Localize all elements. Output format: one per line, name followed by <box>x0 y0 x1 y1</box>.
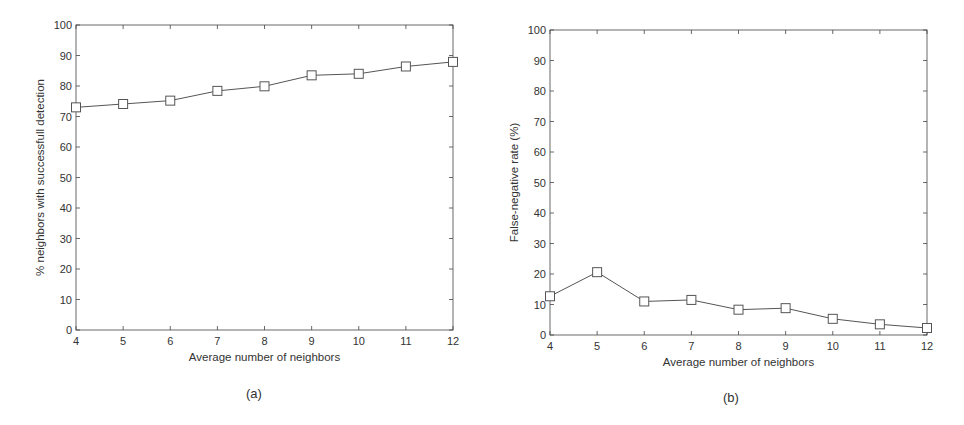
y-tick-label: 80 <box>534 85 546 97</box>
x-tick-label: 9 <box>309 335 315 347</box>
square-marker-icon <box>449 57 458 66</box>
square-marker-icon <box>923 323 932 332</box>
y-tick-label: 20 <box>60 263 72 275</box>
x-tick-label: 10 <box>827 340 839 352</box>
x-tick-label: 5 <box>594 340 600 352</box>
square-marker-icon <box>875 320 884 329</box>
y-tick-label: 90 <box>534 55 546 67</box>
x-tick-label: 8 <box>735 340 741 352</box>
y-tick-label: 30 <box>60 233 72 245</box>
x-tick-label: 8 <box>261 335 267 347</box>
y-tick-label: 50 <box>60 172 72 184</box>
x-tick-label: 4 <box>547 340 553 352</box>
chart-a-panel: 4567891011120102030405060708090100Averag… <box>0 0 480 425</box>
square-marker-icon <box>307 71 316 80</box>
chart-b: 4567891011120102030405060708090100Averag… <box>480 0 964 425</box>
y-tick-label: 80 <box>60 80 72 92</box>
y-tick-label: 10 <box>60 294 72 306</box>
square-marker-icon <box>260 82 269 91</box>
x-axis-label: Average number of neighbors <box>663 356 815 368</box>
chart-b-caption: (b) <box>723 390 739 405</box>
x-tick-label: 9 <box>783 340 789 352</box>
x-tick-label: 4 <box>73 335 79 347</box>
x-tick-label: 6 <box>641 340 647 352</box>
square-marker-icon <box>734 305 743 314</box>
square-marker-icon <box>781 304 790 313</box>
square-marker-icon <box>828 314 837 323</box>
square-marker-icon <box>213 86 222 95</box>
x-axis-label: Average number of neighbors <box>189 351 341 363</box>
y-tick-label: 30 <box>534 238 546 250</box>
y-axis-label: % neighbors with successfull detection <box>34 79 46 276</box>
x-tick-label: 12 <box>447 335 459 347</box>
square-marker-icon <box>687 295 696 304</box>
chart-a: 4567891011120102030405060708090100Averag… <box>0 0 480 425</box>
x-tick-label: 11 <box>874 340 885 352</box>
square-marker-icon <box>354 69 363 78</box>
plot-area <box>550 30 927 335</box>
series-line <box>550 272 927 328</box>
y-tick-label: 90 <box>60 50 72 62</box>
x-tick-label: 7 <box>214 335 220 347</box>
chart-a-caption: (a) <box>246 386 262 401</box>
x-tick-label: 12 <box>921 340 933 352</box>
y-tick-label: 60 <box>60 141 72 153</box>
square-marker-icon <box>593 268 602 277</box>
square-marker-icon <box>401 62 410 71</box>
plot-area <box>76 25 453 330</box>
y-axis-label: False-negative rate (%) <box>508 123 520 243</box>
square-marker-icon <box>640 297 649 306</box>
y-tick-label: 40 <box>60 202 72 214</box>
x-tick-label: 6 <box>167 335 173 347</box>
y-tick-label: 50 <box>534 177 546 189</box>
y-tick-label: 40 <box>534 207 546 219</box>
y-tick-label: 0 <box>540 329 546 341</box>
x-tick-label: 11 <box>400 335 411 347</box>
y-tick-label: 60 <box>534 146 546 158</box>
y-tick-label: 100 <box>528 24 546 36</box>
x-tick-label: 7 <box>688 340 694 352</box>
x-tick-label: 10 <box>353 335 365 347</box>
y-tick-label: 10 <box>534 299 546 311</box>
y-tick-label: 70 <box>534 116 546 128</box>
square-marker-icon <box>166 96 175 105</box>
chart-b-panel: 4567891011120102030405060708090100Averag… <box>480 0 964 425</box>
square-marker-icon <box>119 99 128 108</box>
x-tick-label: 5 <box>120 335 126 347</box>
y-tick-label: 100 <box>54 19 72 31</box>
square-marker-icon <box>546 292 555 301</box>
y-tick-label: 20 <box>534 268 546 280</box>
y-tick-label: 0 <box>66 324 72 336</box>
y-tick-label: 70 <box>60 111 72 123</box>
square-marker-icon <box>72 103 81 112</box>
